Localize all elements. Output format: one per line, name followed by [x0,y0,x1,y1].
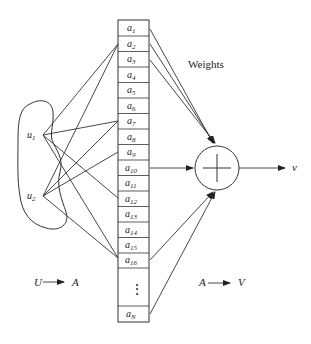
output-label: v [292,161,297,173]
cell-a6: a6 [127,100,136,113]
input-label-u1: u1 [27,129,36,142]
cell-a16: a16 [125,254,138,267]
cell-a4: a4 [127,69,136,82]
cell-a8: a8 [127,131,136,144]
input-label-u2: u2 [27,190,36,203]
cell-a10: a10 [125,162,138,175]
input-connection-lines [43,44,118,258]
cell-ellipsis: ⋮ [130,282,144,297]
mapping-left-from: U [34,276,43,288]
cmac-diagram: Weights v u1 u2 a1 a2 a3 a4 a5 a6 a7 a8 … [0,0,311,344]
mapping-right-to: V [238,276,246,288]
cell-a2: a2 [127,38,136,51]
weights-label: Weights [188,58,224,70]
cell-a12: a12 [125,193,138,206]
cell-a7: a7 [127,115,136,128]
weight-lines [150,29,215,314]
cell-a13: a13 [125,208,138,221]
cell-a11: a11 [125,177,136,190]
mapping-left-to: A [71,276,79,288]
cell-aN: aN [126,308,136,321]
cell-a5: a5 [127,84,136,97]
cell-a9: a9 [127,146,136,159]
cell-a15: a15 [125,239,138,252]
summation-node [195,146,239,190]
mapping-right-from: A [198,276,206,288]
cell-a1: a1 [127,22,136,35]
cell-a14: a14 [125,224,138,237]
cell-a3: a3 [127,53,136,66]
